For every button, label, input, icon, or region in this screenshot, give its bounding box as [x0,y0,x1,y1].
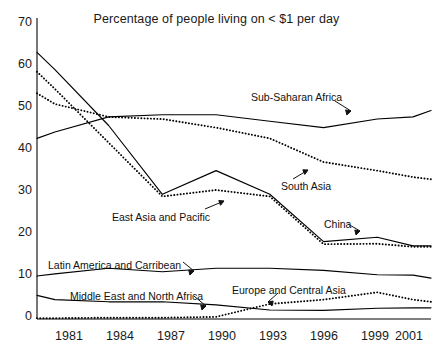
chart-figure: Percentage of people living on < $1 per … [0,0,433,358]
arrow-middle-east-and-north-africa [194,296,206,306]
plot-area [0,0,433,358]
series-line-middle-east-and-north-africa [37,295,431,310]
series-line-south-asia [37,93,431,179]
annotation-arrows [183,101,360,310]
arrowhead-latin-america-and-carribean [189,270,194,275]
arrow-sub-saharan-africa [335,101,351,111]
arrowhead-middle-east-and-north-africa [201,305,206,310]
figure-caption [0,352,433,358]
series-line-europe-and-central-asia [37,292,431,318]
series-line-china [37,72,431,247]
arrow-china [348,224,360,231]
arrowhead-east-asia-and-pacific [219,201,224,206]
arrowhead-south-asia [303,170,308,175]
series-line-east-asia-and-pacific [37,52,431,246]
series-layer [37,52,431,318]
series-line-latin-america-and-carribean [37,268,431,278]
arrowhead-sub-saharan-africa [346,110,351,115]
arrowhead-china [355,230,360,235]
